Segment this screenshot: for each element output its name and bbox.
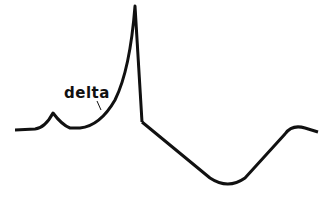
waveform-thin-downstroke: [135, 6, 142, 122]
waveform-diagram: [0, 0, 329, 200]
delta-label: delta: [64, 84, 110, 102]
waveform-line: [15, 6, 142, 130]
delta-pointer: [97, 101, 101, 110]
waveform-line-right: [142, 122, 318, 184]
